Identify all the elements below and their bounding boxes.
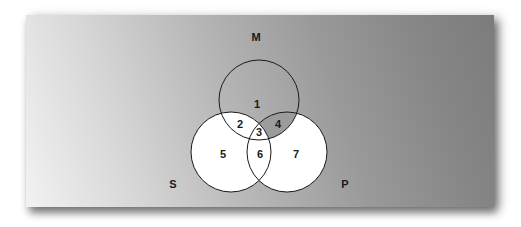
set-label-m: M [251, 31, 260, 43]
region-label-6: 6 [257, 148, 263, 160]
region-label-7: 7 [293, 148, 299, 160]
diagram-stage: M S P 1 2 3 4 5 6 7 [0, 0, 521, 227]
region-label-5: 5 [220, 148, 226, 160]
region-label-4: 4 [275, 118, 282, 130]
region-label-1: 1 [254, 98, 260, 110]
region-label-2: 2 [237, 118, 243, 130]
set-label-s: S [169, 178, 176, 190]
venn-diagram: M S P 1 2 3 4 5 6 7 [0, 0, 521, 227]
region-label-3: 3 [256, 126, 262, 138]
set-label-p: P [341, 178, 348, 190]
